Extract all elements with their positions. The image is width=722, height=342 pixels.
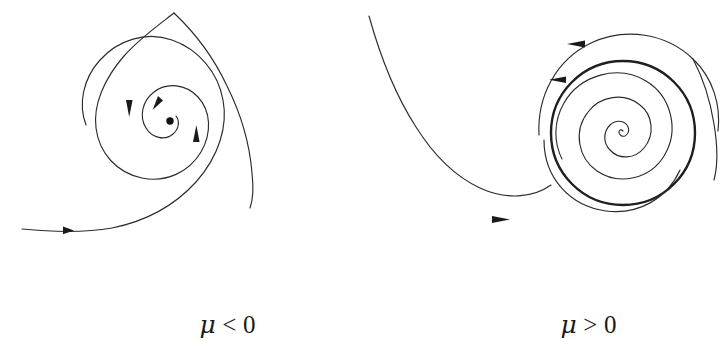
value-right: 0 bbox=[604, 311, 617, 338]
mu-symbol-right: μ bbox=[561, 310, 578, 339]
phase-portrait-limit-cycle bbox=[361, 0, 722, 260]
flow-arrow-outer-top bbox=[567, 41, 585, 48]
trajectory-inward-spiral bbox=[96, 13, 209, 179]
flow-arrow-tail bbox=[63, 227, 74, 235]
panel-mu-negative: μ<0 bbox=[0, 0, 361, 309]
value-left: 0 bbox=[243, 311, 256, 338]
relation-symbol-left: < bbox=[216, 311, 243, 338]
flow-arrow-inner-top bbox=[549, 77, 566, 84]
mu-symbol-left: μ bbox=[200, 310, 217, 339]
panel-mu-positive: μ>0 bbox=[361, 0, 722, 309]
trajectory-incoming-tail bbox=[22, 37, 224, 232]
trajectory-outer-incoming bbox=[369, 16, 551, 196]
limit-cycle bbox=[551, 61, 695, 205]
fixed-point-dot bbox=[166, 117, 173, 124]
trajectory-outer-exit-tail bbox=[693, 59, 717, 180]
flow-arrow-right bbox=[193, 125, 200, 142]
phase-portrait-stable-focus bbox=[0, 0, 361, 260]
relation-symbol-right: > bbox=[577, 311, 604, 338]
caption-mu-positive: μ>0 bbox=[361, 256, 722, 342]
trajectory-outer-upper-arc bbox=[539, 34, 719, 135]
flow-arrow-inner bbox=[153, 96, 163, 110]
flow-arrow-left bbox=[126, 100, 133, 117]
caption-mu-negative: μ<0 bbox=[0, 256, 361, 342]
flow-arrow-bottom bbox=[492, 216, 510, 223]
trajectory-inner-unstable-spiral bbox=[556, 73, 672, 179]
trajectory-outer-sweep-right bbox=[174, 13, 253, 208]
